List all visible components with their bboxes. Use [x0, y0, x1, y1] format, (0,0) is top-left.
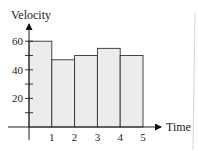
page-fold-line: [193, 12, 195, 150]
bar: [97, 48, 120, 127]
velocity-time-chart: 204060 12345 Velocity Time: [0, 0, 198, 151]
x-tick-label: 2: [72, 131, 78, 143]
y-tick-label: 40: [12, 64, 24, 76]
x-tick-label: 3: [95, 131, 101, 143]
x-ticks: 12345: [49, 131, 146, 143]
y-tick-label: 20: [12, 92, 24, 104]
y-axis-label: Velocity: [11, 8, 51, 22]
x-tick-label: 4: [117, 131, 123, 143]
x-tick-label: 5: [140, 131, 146, 143]
bars: [29, 41, 143, 127]
bar: [75, 56, 98, 128]
x-tick-label: 1: [49, 131, 55, 143]
y-tick-label: 60: [12, 35, 24, 47]
x-axis-label: Time: [166, 120, 191, 134]
bar: [52, 60, 75, 127]
bar: [120, 56, 143, 128]
